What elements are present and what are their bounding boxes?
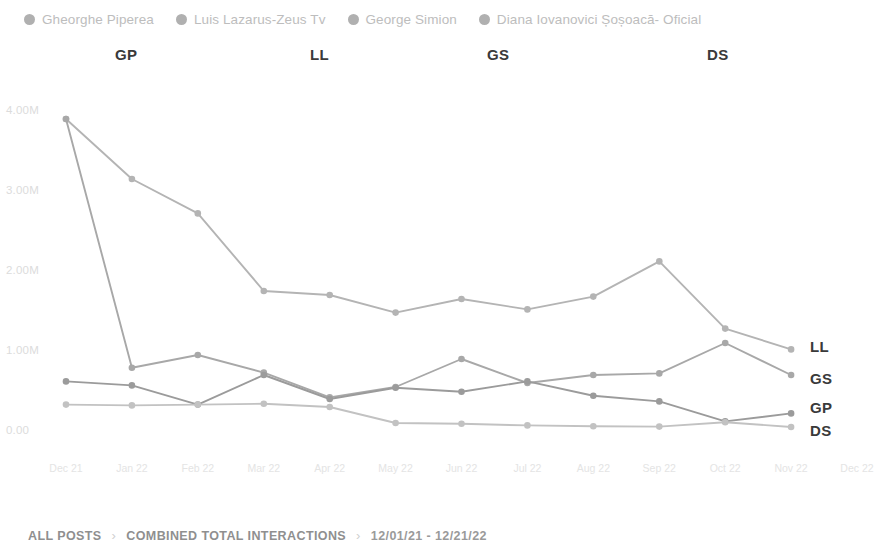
x-axis-tick-label: Nov 22 [774,462,807,474]
legend-color-dot-icon [176,14,187,25]
data-point-marker[interactable] [656,423,663,430]
data-point-marker[interactable] [195,352,202,359]
data-point-marker[interactable] [63,116,70,123]
x-axis-tick-label: Mar 22 [247,462,280,474]
breadcrumb-date-range[interactable]: 12/01/21 - 12/21/22 [371,529,487,543]
top-annotation-row: GPLLGSDS [0,46,872,70]
data-point-marker[interactable] [788,410,795,417]
legend-item-george-simion[interactable]: George Simion [348,12,457,27]
data-point-marker[interactable] [261,372,268,379]
series-ll [63,116,795,353]
series-end-label-gp: GP [810,399,832,416]
data-point-marker[interactable] [590,393,597,400]
data-point-marker[interactable] [63,378,70,385]
breadcrumb: ALL POSTS › COMBINED TOTAL INTERACTIONS … [28,528,487,543]
legend-color-dot-icon [479,14,490,25]
data-point-marker[interactable] [129,365,136,372]
x-axis-tick-label: Jan 22 [116,462,148,474]
legend-item-gheorghe-piperea[interactable]: Gheorghe Piperea [24,12,154,27]
series-end-label-ds: DS [810,422,831,439]
data-point-marker[interactable] [326,292,333,299]
x-axis-tick-label: Oct 22 [710,462,741,474]
data-point-marker[interactable] [458,389,465,396]
data-point-marker[interactable] [261,401,268,408]
data-point-marker[interactable] [590,372,597,379]
annotation-code-gp: GP [115,46,137,63]
series-line [66,119,791,349]
annotation-code-ds: DS [707,46,728,63]
data-point-marker[interactable] [458,296,465,303]
series-line [66,119,791,397]
data-point-marker[interactable] [590,423,597,430]
chevron-right-icon: › [112,528,117,543]
data-point-marker[interactable] [788,424,795,431]
x-axis-tick-label: Sep 22 [643,462,676,474]
data-point-marker[interactable] [722,325,729,332]
data-point-marker[interactable] [392,385,399,392]
data-point-marker[interactable] [261,288,268,295]
data-point-marker[interactable] [195,401,202,408]
series-end-label-gs: GS [810,370,832,387]
data-point-marker[interactable] [788,346,795,353]
chart-legend: Gheorghe Piperea Luis Lazarus-Zeus Tv Ge… [24,8,864,30]
x-axis-tick-label: Apr 22 [314,462,345,474]
data-point-marker[interactable] [392,309,399,316]
legend-color-dot-icon [348,14,359,25]
data-point-marker[interactable] [590,293,597,300]
chart-svg [0,78,872,458]
series-gs [63,116,795,401]
data-point-marker[interactable] [326,396,333,403]
legend-item-luis-lazarus-zeus-tv[interactable]: Luis Lazarus-Zeus Tv [176,12,326,27]
series-ds [63,401,795,431]
data-point-marker[interactable] [524,306,531,313]
x-axis-tick-label: May 22 [378,462,412,474]
breadcrumb-metric[interactable]: COMBINED TOTAL INTERACTIONS [126,529,346,543]
data-point-marker[interactable] [63,401,70,408]
legend-item-label: Diana Iovanovici Șoșoacă- Oficial [497,12,701,27]
data-point-marker[interactable] [129,176,136,183]
data-point-marker[interactable] [129,402,136,409]
data-point-marker[interactable] [195,210,202,217]
data-point-marker[interactable] [524,422,531,429]
data-point-marker[interactable] [458,356,465,363]
data-point-marker[interactable] [458,421,465,428]
data-point-marker[interactable] [722,340,729,347]
data-point-marker[interactable] [788,372,795,379]
x-axis-tick-label: Dec 21 [49,462,82,474]
line-chart-plot-area [0,78,872,458]
data-point-marker[interactable] [722,419,729,426]
data-point-marker[interactable] [129,382,136,389]
legend-item-label: Gheorghe Piperea [42,12,154,27]
x-axis-tick-label: Jul 22 [513,462,541,474]
legend-item-diana-iovanovici-sosoaca-oficial[interactable]: Diana Iovanovici Șoșoacă- Oficial [479,12,701,27]
data-point-marker[interactable] [524,378,531,385]
x-axis: Dec 21Jan 22Feb 22Mar 22Apr 22May 22Jun … [0,462,872,482]
series-end-label-ll: LL [810,338,829,355]
data-point-marker[interactable] [656,258,663,265]
chevron-right-icon: › [356,528,361,543]
data-point-marker[interactable] [656,370,663,377]
annotation-code-gs: GS [487,46,509,63]
data-point-marker[interactable] [326,404,333,411]
data-point-marker[interactable] [656,398,663,405]
breadcrumb-all-posts[interactable]: ALL POSTS [28,529,102,543]
x-axis-tick-label: Feb 22 [181,462,214,474]
x-axis-tick-label: Aug 22 [577,462,610,474]
data-point-marker[interactable] [392,420,399,427]
legend-item-label: Luis Lazarus-Zeus Tv [194,12,326,27]
series-line [66,375,791,421]
series-gp [63,372,795,425]
x-axis-tick-label: Dec 22 [840,462,873,474]
x-axis-tick-label: Jun 22 [446,462,478,474]
legend-color-dot-icon [24,14,35,25]
annotation-code-ll: LL [310,46,329,63]
legend-item-label: George Simion [366,12,457,27]
series-line [66,404,791,427]
